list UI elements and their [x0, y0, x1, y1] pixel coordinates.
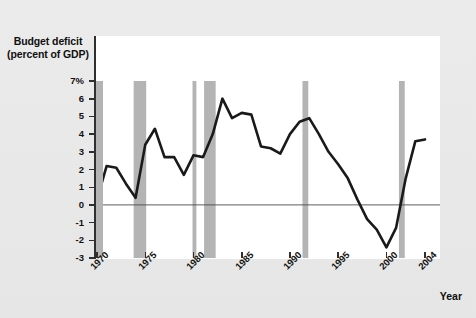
- y-axis-tick: [89, 151, 94, 153]
- recession-1990-1991: [302, 81, 308, 258]
- y-axis-tick-label: -1: [58, 217, 84, 228]
- x-axis-label: Year: [440, 290, 462, 302]
- chart-title-line-1: Budget deficit: [4, 35, 92, 48]
- recession-1981-1982: [204, 81, 216, 258]
- chart-page: Budget deficit (percent of GDP) 7%654321…: [0, 0, 476, 318]
- chart-title-line-2: (percent of GDP): [4, 48, 92, 61]
- y-axis-tick-label: 0: [58, 199, 84, 210]
- recession-bands-group: [134, 81, 405, 258]
- y-axis-tick: [89, 98, 94, 100]
- plot-area: [94, 36, 440, 259]
- chart-title: Budget deficit (percent of GDP): [4, 35, 92, 60]
- y-axis-tick-label: -3: [58, 252, 84, 263]
- chart-canvas: [94, 36, 440, 259]
- y-axis-tick: [89, 240, 94, 242]
- y-axis-tick-label: 6: [58, 93, 84, 104]
- y-axis-tick: [89, 169, 94, 171]
- y-axis-tick-label: 1: [58, 181, 84, 192]
- y-axis-tick-label: 3: [58, 146, 84, 157]
- y-axis-tick-label: 7%: [58, 75, 84, 86]
- y-axis-tick: [89, 133, 94, 135]
- y-axis-tick-label: 2: [58, 164, 84, 175]
- y-axis-tick: [89, 187, 94, 189]
- y-axis-edge-band: [96, 81, 103, 258]
- y-axis-tick: [89, 222, 94, 224]
- recession-2001: [399, 81, 405, 258]
- y-axis-tick-label: -2: [58, 234, 84, 245]
- axis-title-panel: Budget deficit (percent of GDP): [0, 0, 94, 318]
- y-axis-tick-label: 5: [58, 110, 84, 121]
- y-axis-tick: [89, 80, 94, 82]
- recession-1980: [193, 81, 197, 258]
- y-axis-tick: [89, 204, 94, 206]
- y-axis-tick-label: 4: [58, 128, 84, 139]
- y-axis-tick: [89, 116, 94, 118]
